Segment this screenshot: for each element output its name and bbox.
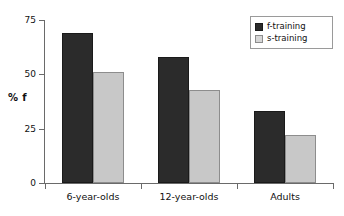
- y-axis-tick-label: 25: [25, 125, 36, 134]
- y-axis-title: % f: [8, 92, 27, 103]
- legend-label-f-training: f-training: [267, 22, 306, 31]
- x-axis-tick: [333, 184, 334, 189]
- y-axis-tick: [39, 129, 44, 130]
- x-axis-tick: [237, 184, 238, 189]
- bar-chart: % f 0255075 6-year-olds12-year-oldsAdult…: [0, 0, 344, 216]
- bar-f-training-12-year-olds: [158, 57, 189, 183]
- bar-s-training-6-year-olds: [93, 72, 124, 183]
- x-axis-label-Adults: Adults: [270, 191, 300, 202]
- legend-swatch-icon-f-training: [255, 23, 263, 31]
- legend-swatch-icon-s-training: [255, 35, 263, 43]
- x-axis-label-6-year-olds: 6-year-olds: [67, 191, 120, 202]
- x-axis-tick: [141, 184, 142, 189]
- x-axis-line: [44, 183, 334, 184]
- legend: f-training s-training: [250, 16, 333, 49]
- y-axis-tick-label: 50: [25, 70, 36, 79]
- bar-f-training-6-year-olds: [62, 33, 93, 183]
- y-axis-tick: [39, 183, 44, 184]
- legend-label-s-training: s-training: [267, 34, 307, 43]
- y-axis-tick: [39, 74, 44, 75]
- legend-item-f-training[interactable]: f-training: [255, 21, 328, 32]
- x-axis-tick: [45, 184, 46, 189]
- bar-s-training-Adults: [285, 135, 316, 183]
- y-axis-tick-label: 75: [25, 16, 36, 25]
- legend-item-s-training[interactable]: s-training: [255, 33, 328, 44]
- x-axis-label-12-year-olds: 12-year-olds: [160, 191, 219, 202]
- y-axis-tick: [39, 20, 44, 21]
- bar-s-training-12-year-olds: [189, 90, 220, 183]
- y-axis-tick-label: 0: [30, 179, 36, 188]
- bar-f-training-Adults: [254, 111, 285, 183]
